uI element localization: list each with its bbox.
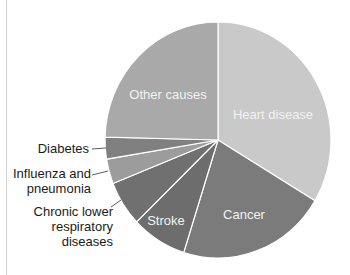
label-other-causes: Other causes <box>129 87 207 102</box>
label-stroke: Stroke <box>147 213 185 228</box>
pie-slices <box>105 22 331 258</box>
label-diabetes: Diabetes <box>38 141 90 156</box>
label-chronic-line3: diseases <box>62 234 114 249</box>
pie-chart: Heart disease Other causes Cancer Stroke… <box>0 0 350 275</box>
label-heart-disease: Heart disease <box>233 107 313 122</box>
label-cancer: Cancer <box>223 207 266 222</box>
label-chronic-line1: Chronic lower <box>34 204 114 219</box>
label-chronic-line2: respiratory <box>52 219 114 234</box>
leader-diabetes <box>92 148 106 149</box>
pie-slice-other-causes <box>105 22 218 140</box>
label-influenza-line1: Influenza and <box>13 166 91 181</box>
label-influenza-line2: pneumonia <box>27 181 92 196</box>
leader-influenza <box>92 171 108 175</box>
